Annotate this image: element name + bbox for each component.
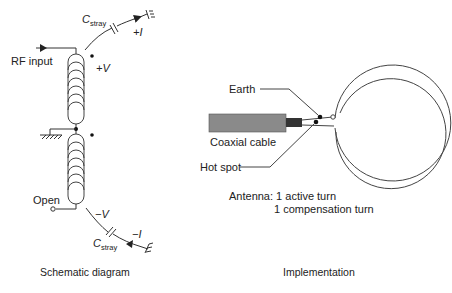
earth-label: Earth xyxy=(229,83,255,95)
antenna-loop xyxy=(335,65,451,189)
earth-junction xyxy=(318,115,323,120)
plus-v-label: +V xyxy=(96,62,110,74)
rf-input-arrow-icon xyxy=(40,44,47,52)
bottom-coil xyxy=(68,134,84,204)
coaxial-cable-jacket xyxy=(209,114,286,132)
schematic-caption: Schematic diagram xyxy=(40,266,130,278)
c-stray-top-label: Cstray xyxy=(82,13,106,27)
coaxial-cable-label: Coaxial cable xyxy=(210,136,276,148)
polarity-dot-top xyxy=(90,54,94,58)
hot-spot-label: Hot spot xyxy=(200,161,241,173)
bottom-ground-icon xyxy=(142,243,153,253)
coaxial-cable-core xyxy=(286,118,302,127)
ground-symbol xyxy=(40,129,76,139)
earth-leader xyxy=(260,89,318,115)
top-ground-icon xyxy=(140,10,155,19)
antenna-line1: Antenna: 1 active turn xyxy=(229,190,336,202)
open-label: Open xyxy=(33,194,60,206)
minus-v-label: −V xyxy=(95,208,109,220)
plus-i-label: +I xyxy=(133,26,142,38)
rf-input-label: RF input xyxy=(11,55,53,67)
top-coil xyxy=(68,54,84,124)
antenna-line2: 1 compensation turn xyxy=(274,203,374,215)
c-stray-bottom-label: Cstray xyxy=(93,237,117,251)
hot-spot-junction xyxy=(314,120,319,125)
minus-i-label: −I xyxy=(132,228,141,240)
implementation-caption: Implementation xyxy=(283,266,355,278)
polarity-dot-middle xyxy=(90,133,94,137)
loop-gap-node xyxy=(331,115,335,119)
